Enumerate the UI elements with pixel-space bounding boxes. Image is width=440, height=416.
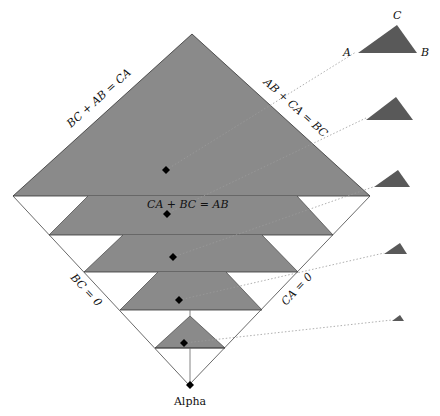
region-band-2 — [84, 235, 298, 272]
alpha-label: Alpha — [173, 395, 207, 408]
label-ca-zero: CA = 0 — [279, 270, 315, 308]
shape-1 — [358, 25, 417, 53]
shape-3 — [374, 170, 410, 187]
region-top-triangle — [13, 34, 370, 196]
vertex-label-c: C — [393, 9, 402, 22]
example-triangles — [358, 25, 417, 321]
shape-2 — [366, 97, 413, 120]
vertex-label-a: A — [342, 46, 351, 59]
label-bc-zero: BC = 0 — [67, 270, 104, 309]
point-alpha — [186, 381, 194, 389]
shape-4 — [384, 243, 407, 254]
triangle-shape-diagram: C A B BC + AB = CA AB + CA = BC CA + BC … — [0, 0, 440, 416]
region-band-3 — [120, 272, 262, 310]
vertex-label-b: B — [420, 46, 429, 59]
label-ca-bc-ab: CA + BC = AB — [147, 198, 229, 211]
shape-5 — [392, 315, 404, 321]
region-band-4 — [155, 316, 225, 348]
